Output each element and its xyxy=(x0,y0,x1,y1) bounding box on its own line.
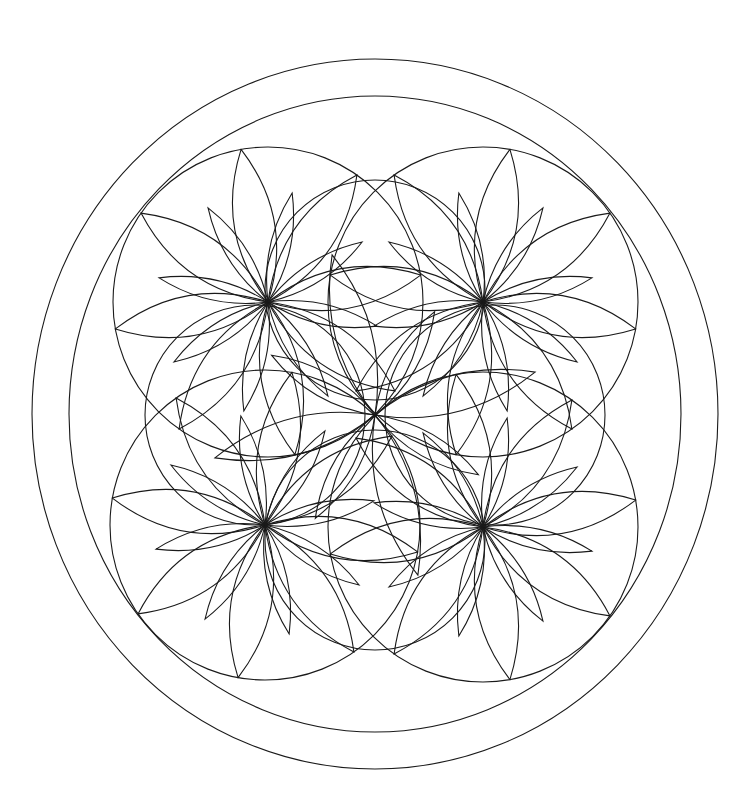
mandala-artwork xyxy=(0,0,745,812)
petal xyxy=(329,255,377,415)
flower-top-left xyxy=(113,147,423,457)
petal xyxy=(483,400,572,527)
petal xyxy=(138,525,265,614)
petal xyxy=(179,302,268,429)
petal xyxy=(394,175,483,302)
petal xyxy=(176,398,265,525)
petal xyxy=(483,302,572,429)
petal xyxy=(141,213,268,302)
petal xyxy=(483,213,610,302)
petal xyxy=(394,527,483,654)
flower-top-right xyxy=(328,147,638,457)
petal xyxy=(268,175,357,302)
petal xyxy=(372,415,420,575)
petal xyxy=(483,527,610,616)
